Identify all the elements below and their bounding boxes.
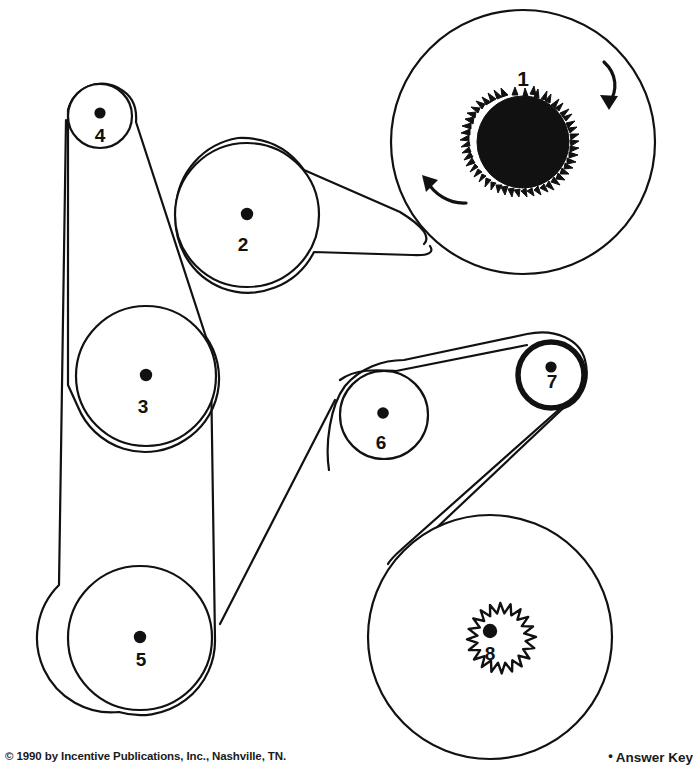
pulley-7-label: 7 (547, 371, 558, 392)
pulley-1-label: 1 (517, 67, 529, 90)
pulley-7[interactable]: 7 (518, 342, 584, 408)
pulley-8-label: 8 (485, 643, 496, 664)
pulley-4[interactable]: 4 (68, 84, 132, 148)
copyright-notice: © 1990 by Incentive Publications, Inc., … (5, 750, 286, 762)
pulley-2-hub-dot (241, 208, 253, 220)
belt-3-to-5-right (211, 370, 215, 639)
pulley-5[interactable]: 5 (68, 566, 212, 710)
pulley-6[interactable]: 6 (340, 371, 428, 459)
pulley-6-label: 6 (376, 432, 387, 453)
pulley-5-label: 5 (136, 649, 147, 670)
bullet-icon: • (608, 748, 613, 763)
belt-6-to-5 (220, 400, 335, 624)
pulley-5-hub-dot (134, 631, 146, 643)
pulley-1[interactable]: 1 (391, 10, 655, 274)
pulley-8-hub-dot (483, 624, 497, 638)
pulley-6-hub-dot (377, 407, 389, 419)
pulley-4-label: 4 (95, 125, 106, 146)
pulley-4-hub-dot (94, 107, 105, 118)
pulley-2-label: 2 (238, 234, 249, 255)
diagram-page: 1 2 4 3 (0, 0, 699, 774)
answer-key-label: Answer Key (616, 750, 693, 765)
pulley-3-hub-dot (140, 369, 152, 381)
pulley-3[interactable]: 3 (76, 306, 216, 446)
pulley-8[interactable]: 8 (368, 515, 612, 759)
belt-8-to-7-return (430, 397, 575, 534)
pulley-3-label: 3 (138, 396, 149, 417)
answer-key-marker: •Answer Key (608, 748, 693, 765)
pulley-2[interactable]: 2 (175, 143, 319, 287)
pulley-belt-diagram: 1 2 4 3 (0, 0, 699, 774)
